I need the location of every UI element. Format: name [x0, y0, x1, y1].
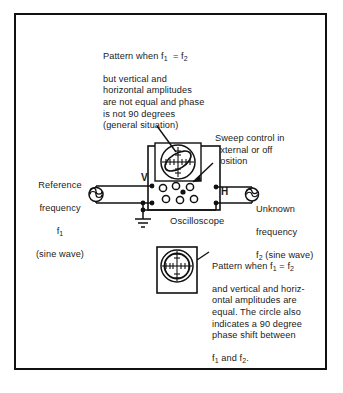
- diagram-linework: [0, 0, 343, 393]
- knob-5[interactable]: [176, 196, 183, 203]
- figure-canvas: Pattern when f1 = f2 but vertical and ho…: [0, 0, 343, 393]
- junction-dot-ground: [141, 208, 146, 213]
- unknown-generator-circuit: [216, 187, 259, 203]
- knob-4[interactable]: [162, 195, 169, 202]
- knob-6[interactable]: [190, 195, 197, 202]
- knob-3[interactable]: [186, 183, 193, 190]
- knob-1[interactable]: [159, 184, 166, 191]
- knob-indicator-dot: [180, 189, 185, 194]
- earth-ground-symbol: [135, 219, 151, 227]
- leader-bottom-callout: [197, 252, 209, 260]
- junction-dot-left: [141, 201, 146, 206]
- reference-generator-circuit: [89, 186, 152, 203]
- knob-2[interactable]: [172, 182, 179, 189]
